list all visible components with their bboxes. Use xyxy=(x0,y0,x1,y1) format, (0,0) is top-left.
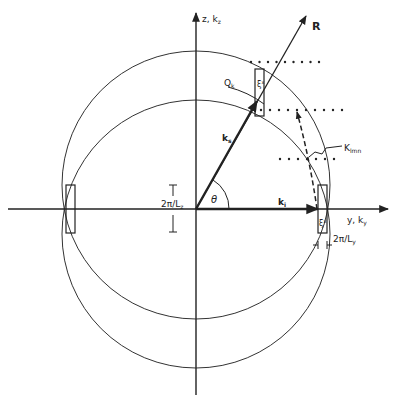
Ly-sub: y xyxy=(352,238,356,246)
reciprocal-lattice-row-3 xyxy=(279,158,335,160)
K-lmn-vector xyxy=(297,112,317,209)
xi-upper-sup: x xyxy=(261,79,264,85)
Lz-label: 2π/L xyxy=(161,199,180,209)
svg-text:ξx: ξx xyxy=(319,218,326,228)
y-axis-label: y, k xyxy=(347,215,364,225)
Lz-sub: z xyxy=(180,203,183,210)
Qk-label: Q xyxy=(224,78,231,88)
svg-text:2π/Lz: 2π/Lz xyxy=(161,199,183,210)
R-label: R xyxy=(312,20,321,33)
svg-text:y, ky: y, ky xyxy=(347,215,367,227)
svg-text:z, kz: z, kz xyxy=(202,14,221,25)
svg-text:ki: ki xyxy=(278,197,286,208)
xi-lower-sup: x xyxy=(323,218,326,224)
ks-sub: s xyxy=(228,137,232,144)
Ly-label: 2π/L xyxy=(333,234,352,244)
reciprocal-lattice-row-2 xyxy=(260,109,343,111)
Qk-sub: k xyxy=(231,82,235,89)
svg-text:Qk: Qk xyxy=(224,78,235,89)
ewald-diagram: z, kz y, ky R ks ki θ Qk Klmn ξx ξx 2π/L… xyxy=(0,0,396,404)
ks-vector xyxy=(196,101,257,209)
svg-text:ks: ks xyxy=(222,133,232,144)
ki-sub: i xyxy=(284,201,286,208)
svg-text:Klmn: Klmn xyxy=(344,143,361,154)
z-axis-label: z, k xyxy=(202,14,218,24)
K-sub: lmn xyxy=(350,147,362,154)
theta-label: θ xyxy=(211,194,217,205)
reciprocal-lattice-row-1 xyxy=(250,61,320,63)
Qk-pointer xyxy=(228,87,264,104)
svg-text:ξx: ξx xyxy=(257,79,264,89)
svg-text:2π/Ly: 2π/Ly xyxy=(333,234,356,246)
y-axis-sub: y xyxy=(363,219,367,227)
z-axis-sub: z xyxy=(218,18,221,25)
